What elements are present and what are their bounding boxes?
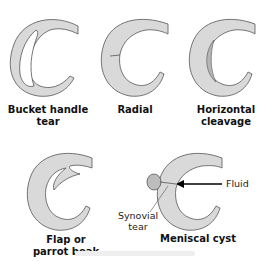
label-line: Flap or bbox=[26, 234, 106, 246]
horizontal-cleavage-label: Horizontal cleavage bbox=[188, 104, 264, 128]
synovial-tear-annotation: Synovial tear bbox=[114, 210, 162, 232]
horizontal-cleavage-shape bbox=[189, 19, 255, 96]
annotation-line: Synovial bbox=[114, 210, 162, 221]
label-line: tear bbox=[6, 116, 90, 128]
label-line: Bucket handle bbox=[6, 104, 90, 116]
meniscal-cyst-label: Meniscal cyst bbox=[158, 233, 238, 245]
label-line: Horizontal bbox=[188, 104, 264, 116]
label-line: Radial bbox=[100, 104, 170, 116]
radial-shape bbox=[101, 19, 168, 96]
fluid-annotation: Fluid bbox=[226, 178, 249, 189]
faint-caption bbox=[75, 251, 195, 256]
label-line: cleavage bbox=[188, 116, 264, 128]
bucket-handle-label: Bucket handle tear bbox=[6, 104, 90, 128]
annotation-line: tear bbox=[114, 221, 162, 232]
label-line: Meniscal cyst bbox=[158, 233, 238, 245]
radial-label: Radial bbox=[100, 104, 170, 116]
flap-shape bbox=[27, 153, 92, 230]
bucket-handle-shape bbox=[10, 20, 78, 97]
